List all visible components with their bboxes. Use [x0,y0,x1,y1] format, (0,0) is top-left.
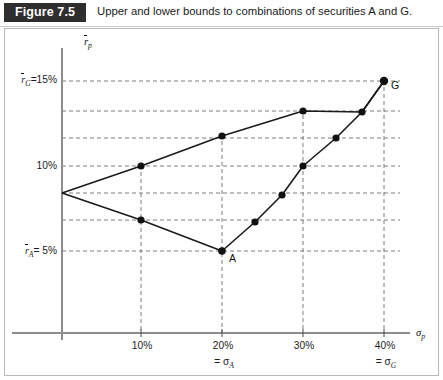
series-lower-bound-markers [137,134,339,225]
data-point [358,108,365,115]
y-tick-text-10: 10% [37,160,57,171]
data-point [137,216,144,223]
chart-canvas [0,0,443,380]
y-tick-label-5: rA= 5% [5,245,57,259]
y-tick-text-15: =15% [31,74,57,85]
x-tick-label-40: 40% [369,340,401,351]
x-tick-label-20: 20% [207,340,239,351]
data-point [332,134,339,141]
x-tick-sublabel-20: = σA [205,356,243,370]
x-axis-title: σp [416,327,425,341]
data-point-A [218,247,226,255]
y-tick-label-15: rG=15% [5,74,57,88]
data-point [299,107,306,114]
data-point [218,132,225,139]
data-point [299,162,306,169]
x-tick-sublabel-40: = σG [367,356,405,370]
point-label-A: A [229,252,236,264]
y-tick-text-5: = 5% [33,245,57,256]
y-tick-label-10: 10% [5,160,57,171]
x-tick-label-10: 10% [126,340,158,351]
data-point-G [380,77,388,85]
vertical-gridlines [141,80,384,333]
horizontal-gridlines [62,81,400,251]
point-label-G: G [391,79,399,91]
x-tick-label-30: 30% [288,340,320,351]
figure-container: Figure 7.5 Upper and lower bounds to com… [0,0,443,380]
data-point [137,162,144,169]
data-point [278,191,285,198]
y-axis-title: rp [84,36,92,50]
data-point [251,218,258,225]
